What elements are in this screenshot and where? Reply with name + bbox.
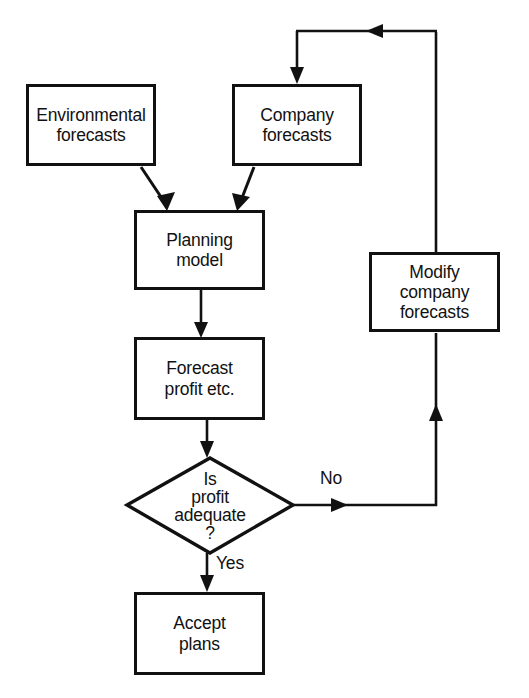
edge-decision-no-to-modify	[293, 333, 443, 512]
node-accept-plans: Accept plans	[134, 592, 265, 675]
node-environmental-forecasts-label: Environmental forecasts	[36, 105, 145, 146]
flowchart-canvas: Environmental forecasts Company forecast…	[0, 0, 529, 698]
edge-label-yes: Yes	[216, 553, 244, 574]
edge-forecast-to-decision	[200, 420, 214, 458]
node-modify-company-forecasts: Modify company forecasts	[369, 252, 500, 332]
node-accept-plans-label: Accept plans	[173, 613, 225, 654]
node-planning-model: Planning model	[134, 210, 265, 290]
node-environmental-forecasts: Environmental forecasts	[26, 84, 156, 166]
edge-decision-yes-to-accept	[200, 553, 214, 592]
edge-label-no-text: No	[320, 468, 342, 488]
node-company-forecasts-label: Company forecasts	[260, 105, 334, 146]
decision-diamond-shape	[127, 458, 293, 553]
node-forecast-profit: Forecast profit etc.	[134, 337, 265, 420]
edge-planning-to-forecast	[194, 290, 208, 338]
edge-environmental-to-planning	[141, 167, 175, 211]
node-forecast-profit-label: Forecast profit etc.	[165, 358, 235, 399]
node-modify-company-forecasts-label: Modify company forecasts	[400, 262, 470, 323]
node-company-forecasts: Company forecasts	[232, 84, 362, 166]
node-planning-model-label: Planning model	[166, 230, 233, 271]
edge-company-to-planning	[232, 167, 254, 211]
edge-label-no: No	[320, 468, 342, 489]
edge-label-yes-text: Yes	[216, 553, 244, 573]
